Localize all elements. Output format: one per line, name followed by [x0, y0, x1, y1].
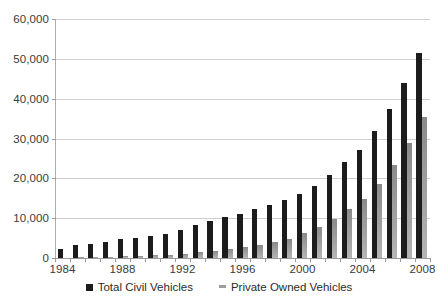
bar-group [265, 19, 280, 258]
x-axis-tick-label: 1992 [170, 263, 196, 275]
bar-group [369, 19, 384, 258]
bar-private-owned-vehicles[interactable] [377, 184, 382, 258]
bar-group [71, 19, 86, 258]
x-axis-tick-label: 2000 [290, 263, 316, 275]
x-axis-tick [220, 258, 221, 262]
x-axis-tick [100, 258, 101, 262]
x-axis-tick [145, 258, 146, 262]
y-axis-tick-label: 60,000 [13, 13, 49, 25]
bar-total-civil-vehicles[interactable] [118, 239, 123, 258]
bar-group [116, 19, 131, 258]
x-axis-tick-label: 2008 [410, 263, 436, 275]
x-axis-tick [295, 258, 296, 262]
bar-group [175, 19, 190, 258]
bar-group [354, 19, 369, 258]
bar-private-owned-vehicles[interactable] [272, 242, 277, 258]
x-axis-tick [430, 258, 431, 262]
x-axis-tick [370, 258, 371, 262]
bar-total-civil-vehicles[interactable] [103, 242, 108, 258]
bar-group [220, 19, 235, 258]
x-axis-tick [235, 258, 236, 262]
y-axis-tick-label: 0 [43, 252, 50, 264]
x-axis-tick [115, 258, 116, 262]
bar-private-owned-vehicles[interactable] [213, 251, 218, 258]
bar-group [101, 19, 116, 258]
bar-total-civil-vehicles[interactable] [73, 245, 78, 258]
bar-group [384, 19, 399, 258]
legend-label: Total Civil Vehicles [98, 281, 193, 293]
bar-chart: 010,00020,00030,00040,00050,00060,000 19… [0, 0, 438, 300]
bar-group [146, 19, 161, 258]
y-axis-tick-label: 30,000 [13, 133, 49, 145]
x-axis-tick-label: 1988 [110, 263, 136, 275]
x-axis-tick [355, 258, 356, 262]
x-axis-tick [265, 258, 266, 262]
bar-group [205, 19, 220, 258]
x-axis-tick [325, 258, 326, 262]
bar-private-owned-vehicles[interactable] [422, 117, 427, 258]
x-axis-tick [160, 258, 161, 262]
x-axis-tick [310, 258, 311, 262]
bar-private-owned-vehicles[interactable] [392, 165, 397, 258]
bars-layer [55, 19, 430, 258]
chart-legend: Total Civil Vehicles Private Owned Vehic… [0, 281, 438, 293]
x-axis-labels: 1984198819921996200020042008 [55, 263, 430, 279]
x-axis-tick [280, 258, 281, 262]
bar-group [86, 19, 101, 258]
bar-group [310, 19, 325, 258]
x-axis-tick [85, 258, 86, 262]
bar-private-owned-vehicles[interactable] [287, 239, 292, 258]
bar-private-owned-vehicles[interactable] [317, 227, 322, 258]
legend-item-total-civil-vehicles[interactable]: Total Civil Vehicles [86, 281, 193, 293]
legend-label: Private Owned Vehicles [231, 281, 352, 293]
bar-group [399, 19, 414, 258]
bar-private-owned-vehicles[interactable] [347, 209, 352, 258]
x-axis-tick [175, 258, 176, 262]
legend-item-private-owned-vehicles[interactable]: Private Owned Vehicles [219, 281, 352, 293]
x-axis-tick [190, 258, 191, 262]
bar-group [56, 19, 71, 258]
black-square-marker-icon [86, 284, 93, 291]
x-axis-tick [340, 258, 341, 262]
x-axis-tick [415, 258, 416, 262]
bar-group [250, 19, 265, 258]
bar-group [295, 19, 310, 258]
bar-group [280, 19, 295, 258]
x-axis-tick [400, 258, 401, 262]
bar-private-owned-vehicles[interactable] [257, 245, 262, 258]
x-axis-tick [385, 258, 386, 262]
bar-private-owned-vehicles[interactable] [243, 247, 248, 258]
y-axis-tick-label: 50,000 [13, 53, 49, 65]
x-axis-tick [130, 258, 131, 262]
y-axis-tick-label: 10,000 [13, 212, 49, 224]
bar-private-owned-vehicles[interactable] [302, 233, 307, 258]
bar-total-civil-vehicles[interactable] [88, 244, 93, 258]
x-axis-tick [250, 258, 251, 262]
bar-group [325, 19, 340, 258]
bar-group [340, 19, 355, 258]
bar-private-owned-vehicles[interactable] [228, 249, 233, 258]
bar-private-owned-vehicles[interactable] [407, 143, 412, 258]
bar-group [190, 19, 205, 258]
bar-group [160, 19, 175, 258]
bar-group [414, 19, 429, 258]
bar-private-owned-vehicles[interactable] [332, 219, 337, 258]
bar-group [235, 19, 250, 258]
bar-private-owned-vehicles[interactable] [362, 199, 367, 258]
x-axis-tick-label: 1996 [230, 263, 256, 275]
x-axis-tick [205, 258, 206, 262]
x-axis-tick [55, 258, 56, 262]
bar-group [131, 19, 146, 258]
x-axis-tick-label: 2004 [350, 263, 376, 275]
y-axis-tick-label: 20,000 [13, 172, 49, 184]
x-axis-tick [70, 258, 71, 262]
x-axis-tick-label: 1984 [50, 263, 76, 275]
y-axis-tick-label: 40,000 [13, 93, 49, 105]
gray-dash-marker-icon [219, 285, 226, 288]
